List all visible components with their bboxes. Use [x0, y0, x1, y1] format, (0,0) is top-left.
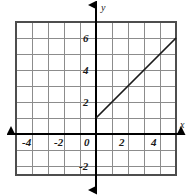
- y-tick-label-neg2: -2: [79, 161, 88, 172]
- x-tick-label-neg4: -4: [22, 137, 31, 148]
- x-tick-label-zero: 0: [84, 137, 90, 148]
- y-tick-label-pos4: 4: [83, 65, 89, 76]
- coordinate-plane-graph: -4 -2 0 2 4 6 4 2 -2 y x: [0, 0, 192, 195]
- x-tick-label-pos2: 2: [119, 137, 125, 148]
- y-axis-name-label: y: [101, 3, 105, 13]
- x-axis-name-label: x: [180, 120, 184, 130]
- x-tick-label-neg2: -2: [54, 137, 63, 148]
- y-tick-label-pos2: 2: [83, 97, 89, 108]
- x-tick-label-pos4: 4: [151, 137, 157, 148]
- y-tick-label-pos6: 6: [83, 33, 89, 44]
- graph-canvas: [0, 0, 192, 195]
